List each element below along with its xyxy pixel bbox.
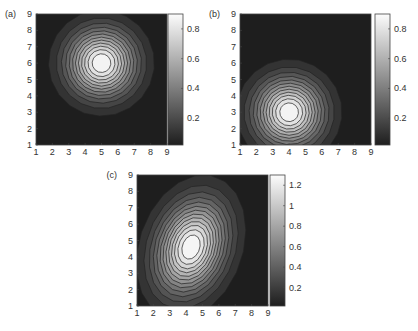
colorbar-tick-label: 0.4 — [187, 83, 200, 93]
contour-field — [36, 10, 167, 145]
x-tick-label: 5 — [99, 147, 104, 157]
x-tick-label: 9 — [164, 147, 169, 157]
x-tick-label: 1 — [33, 147, 38, 157]
x-tick-label: 2 — [50, 147, 55, 157]
y-tick-label: 7 — [27, 42, 32, 52]
y-tick-label: 5 — [27, 75, 32, 85]
x-tick-label: 7 — [132, 147, 137, 157]
colorbar — [168, 14, 183, 145]
y-tick-label: 8 — [27, 25, 32, 35]
colorbar-tick-label: 0.6 — [187, 54, 200, 64]
x-tick-label: 6 — [115, 147, 120, 157]
x-tick-label: 8 — [148, 147, 153, 157]
y-tick-label: 2 — [27, 124, 32, 134]
contour-level — [92, 54, 111, 73]
y-tick-label: 9 — [27, 9, 32, 19]
x-tick-label: 4 — [83, 147, 88, 157]
y-tick-label: 1 — [27, 140, 32, 150]
x-tick-label: 3 — [66, 147, 71, 157]
y-tick-label: 6 — [27, 58, 32, 68]
y-tick-label: 4 — [27, 91, 32, 101]
colorbar-tick-label: 0.8 — [187, 24, 200, 34]
panel-label: (a) — [5, 9, 16, 19]
y-tick-label: 3 — [27, 107, 32, 117]
colorbar-tick-label: 0.2 — [187, 113, 200, 123]
